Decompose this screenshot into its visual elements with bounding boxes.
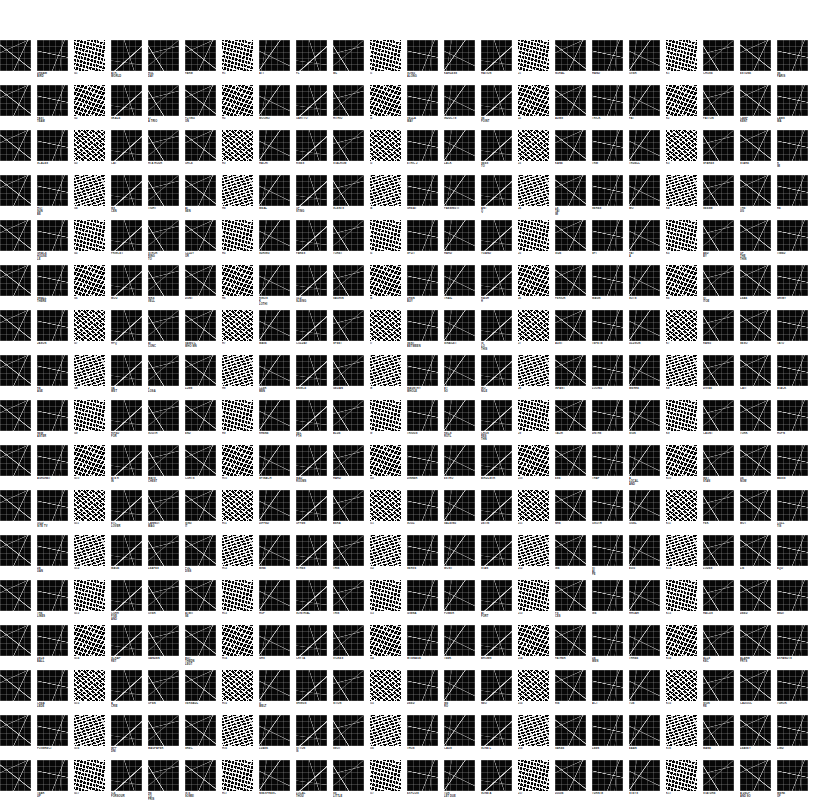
thumbnail-cell[interactable] bbox=[0, 760, 36, 792]
thumbnail-cell[interactable]: G3 bbox=[74, 130, 110, 165]
plot-thumbnail[interactable] bbox=[148, 715, 179, 746]
plot-thumbnail[interactable] bbox=[629, 175, 660, 206]
texture-thumbnail[interactable] bbox=[74, 85, 105, 116]
texture-thumbnail[interactable] bbox=[518, 265, 549, 296]
plot-thumbnail[interactable] bbox=[185, 400, 216, 431]
texture-thumbnail[interactable] bbox=[222, 490, 253, 521]
plot-thumbnail[interactable] bbox=[629, 355, 660, 386]
plot-thumbnail[interactable] bbox=[629, 715, 660, 746]
thumbnail-cell[interactable]: LODES bbox=[703, 535, 739, 570]
thumbnail-cell[interactable]: ATH- WORLD bbox=[111, 40, 147, 78]
plot-thumbnail[interactable] bbox=[592, 580, 623, 611]
plot-thumbnail[interactable] bbox=[333, 625, 364, 656]
thumbnail-cell[interactable]: K1 bbox=[666, 40, 702, 75]
plot-thumbnail[interactable] bbox=[37, 40, 68, 71]
thumbnail-cell[interactable]: GRIMY bbox=[777, 265, 813, 300]
thumbnail-cell[interactable]: PERIOR bbox=[555, 265, 591, 300]
thumbnail-cell[interactable]: HOL DAY bbox=[148, 40, 184, 78]
plot-thumbnail[interactable] bbox=[740, 445, 771, 476]
thumbnail-cell[interactable]: MOU bbox=[111, 265, 147, 300]
plot-thumbnail[interactable] bbox=[629, 400, 660, 431]
thumbnail-cell[interactable]: EXPANDTS bbox=[777, 625, 813, 660]
thumbnail-cell[interactable]: RE AGE bbox=[37, 355, 73, 393]
thumbnail-cell[interactable]: JASON bbox=[37, 310, 73, 345]
plot-thumbnail[interactable] bbox=[555, 400, 586, 431]
thumbnail-cell[interactable]: FAT bbox=[629, 85, 665, 120]
texture-thumbnail[interactable] bbox=[518, 625, 549, 656]
thumbnail-cell[interactable]: GANDEN bbox=[148, 625, 184, 660]
plot-thumbnail[interactable] bbox=[333, 715, 364, 746]
plot-thumbnail[interactable] bbox=[555, 310, 586, 341]
thumbnail-cell[interactable]: K17 bbox=[666, 760, 702, 795]
thumbnail-cell[interactable]: SONE A bbox=[481, 760, 517, 795]
thumbnail-cell[interactable]: I1 bbox=[370, 40, 406, 75]
plot-thumbnail[interactable] bbox=[407, 85, 438, 116]
thumbnail-cell[interactable]: H8 bbox=[222, 355, 258, 390]
thumbnail-cell[interactable]: K15 bbox=[666, 670, 702, 705]
thumbnail-cell[interactable]: ST ITOE bbox=[703, 265, 739, 303]
plot-thumbnail[interactable] bbox=[629, 760, 660, 791]
texture-thumbnail[interactable] bbox=[74, 490, 105, 521]
plot-thumbnail[interactable] bbox=[111, 670, 142, 701]
plot-thumbnail[interactable] bbox=[444, 85, 475, 116]
plot-thumbnail[interactable] bbox=[259, 40, 290, 71]
plot-thumbnail[interactable] bbox=[777, 670, 808, 701]
plot-thumbnail[interactable] bbox=[259, 670, 290, 701]
thumbnail-cell[interactable]: CLLDY OR bbox=[185, 220, 221, 258]
thumbnail-cell[interactable]: STALROW bbox=[333, 130, 369, 165]
thumbnail-cell[interactable] bbox=[0, 40, 36, 72]
plot-thumbnail[interactable] bbox=[592, 535, 623, 566]
plot-thumbnail[interactable] bbox=[259, 535, 290, 566]
thumbnail-cell[interactable]: OVER bbox=[629, 40, 665, 75]
thumbnail-cell[interactable]: AGRUNET bbox=[37, 445, 73, 480]
thumbnail-cell[interactable]: FARM bbox=[185, 40, 221, 75]
plot-thumbnail[interactable] bbox=[259, 265, 290, 296]
plot-thumbnail[interactable] bbox=[185, 175, 216, 206]
thumbnail-cell[interactable]: FAST TEAM bbox=[37, 85, 73, 123]
thumbnail-cell[interactable] bbox=[0, 400, 36, 432]
plot-thumbnail[interactable] bbox=[333, 40, 364, 71]
thumbnail-cell[interactable]: TOE bbox=[629, 670, 665, 705]
thumbnail-cell[interactable]: U WELT bbox=[259, 670, 295, 708]
thumbnail-cell[interactable]: MANE bbox=[703, 715, 739, 750]
thumbnail-cell[interactable]: LEAVEY bbox=[740, 715, 776, 750]
thumbnail-cell[interactable]: SMALL THERE bbox=[37, 265, 73, 303]
plot-thumbnail[interactable] bbox=[703, 715, 734, 746]
thumbnail-cell[interactable]: G12 bbox=[74, 535, 110, 570]
thumbnail-cell[interactable]: ESTRO bbox=[444, 445, 480, 480]
thumbnail-cell[interactable]: G11 bbox=[74, 490, 110, 525]
plot-thumbnail[interactable] bbox=[0, 355, 31, 386]
thumbnail-cell[interactable]: SEESM bbox=[703, 175, 739, 210]
thumbnail-cell[interactable]: OGEL bbox=[629, 490, 665, 525]
plot-thumbnail[interactable] bbox=[777, 265, 808, 296]
thumbnail-cell[interactable]: WOST bbox=[444, 535, 480, 570]
thumbnail-cell[interactable] bbox=[0, 220, 36, 252]
texture-thumbnail[interactable] bbox=[370, 85, 401, 116]
plot-thumbnail[interactable] bbox=[333, 535, 364, 566]
thumbnail-cell[interactable]: NSEXPRESC bbox=[259, 760, 295, 795]
thumbnail-cell[interactable]: IS E SOMEI bbox=[185, 760, 221, 798]
texture-thumbnail[interactable] bbox=[370, 490, 401, 521]
plot-thumbnail[interactable] bbox=[407, 535, 438, 566]
plot-thumbnail[interactable] bbox=[444, 130, 475, 161]
plot-thumbnail[interactable] bbox=[333, 580, 364, 611]
thumbnail-cell[interactable]: SENT BETWEEN bbox=[407, 310, 443, 348]
plot-thumbnail[interactable] bbox=[777, 715, 808, 746]
thumbnail-cell[interactable]: NORAL bbox=[555, 40, 591, 75]
plot-thumbnail[interactable] bbox=[148, 85, 179, 116]
thumbnail-cell[interactable]: H3 bbox=[222, 130, 258, 165]
plot-thumbnail[interactable] bbox=[407, 580, 438, 611]
thumbnail-cell[interactable] bbox=[0, 535, 36, 567]
plot-thumbnail[interactable] bbox=[259, 445, 290, 476]
thumbnail-cell[interactable]: MS CEN bbox=[111, 175, 147, 213]
plot-thumbnail[interactable] bbox=[444, 265, 475, 296]
thumbnail-cell[interactable]: J1 bbox=[518, 40, 554, 75]
thumbnail-cell[interactable]: TORET bbox=[333, 220, 369, 255]
plot-thumbnail[interactable] bbox=[740, 85, 771, 116]
thumbnail-cell[interactable]: DELE BALL bbox=[37, 625, 73, 663]
plot-thumbnail[interactable] bbox=[407, 670, 438, 701]
plot-thumbnail[interactable] bbox=[777, 445, 808, 476]
plot-thumbnail[interactable] bbox=[148, 220, 179, 251]
thumbnail-cell[interactable]: J LOSA bbox=[148, 355, 184, 393]
plot-thumbnail[interactable] bbox=[296, 400, 327, 431]
